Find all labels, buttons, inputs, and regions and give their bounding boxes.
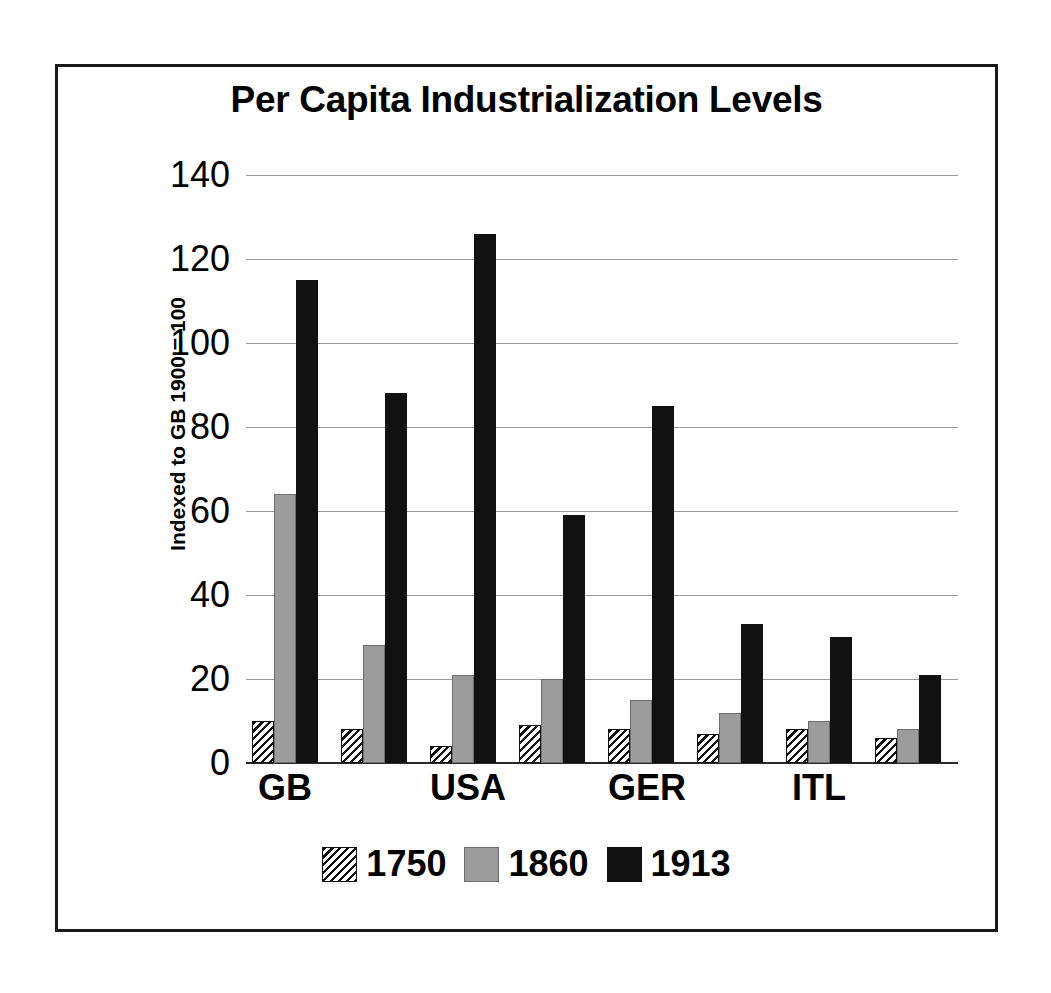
chart-legend: 175018601913: [58, 843, 995, 885]
legend-label: 1913: [651, 843, 731, 885]
bar-1750-group6: [697, 734, 719, 763]
bar-1750-group8: [875, 738, 897, 763]
bar-1750-GB: [252, 721, 274, 763]
bar-1913-group4: [563, 515, 585, 763]
bar-group: GER: [608, 175, 674, 763]
plot-area: 140120100806040200GBUSAGERITL: [246, 175, 958, 763]
hatch-swatch-icon: [322, 847, 357, 882]
bar-1860-USA: [452, 675, 474, 763]
bar-group: GB: [252, 175, 318, 763]
chart-title: Per Capita Industrialization Levels: [58, 79, 995, 121]
y-axis-tick-label: 140: [170, 154, 230, 196]
y-axis-tick-label: 80: [190, 406, 230, 448]
bar-1860-GB: [274, 494, 296, 763]
y-axis-tick-label: 60: [190, 490, 230, 532]
y-axis-tick-label: 0: [210, 742, 230, 784]
bar-1913-USA: [474, 234, 496, 763]
bar-1860-group4: [541, 679, 563, 763]
legend-label: 1860: [508, 843, 588, 885]
legend-entry-1860: 1860: [464, 843, 588, 885]
y-axis-tick-label: 40: [190, 574, 230, 616]
gray-swatch-icon: [464, 847, 499, 882]
y-axis-tick-label: 120: [170, 238, 230, 280]
bar-1860-group8: [897, 729, 919, 763]
bar-1750-group4: [519, 725, 541, 763]
bar-1913-ITL: [830, 637, 852, 763]
bar-1750-ITL: [786, 729, 808, 763]
bar-1913-GER: [652, 406, 674, 763]
x-axis-tick-label: GB: [252, 767, 318, 809]
bar-1860-ITL: [808, 721, 830, 763]
bar-1750-USA: [430, 746, 452, 763]
x-axis-tick-label: GER: [608, 767, 674, 809]
bar-group: [875, 175, 941, 763]
bar-group: ITL: [786, 175, 852, 763]
bar-group: [341, 175, 407, 763]
bar-1860-GER: [630, 700, 652, 763]
bar-1913-group2: [385, 393, 407, 763]
y-axis-tick-label: 100: [170, 322, 230, 364]
y-axis-tick-label: 20: [190, 658, 230, 700]
bar-1913-group6: [741, 624, 763, 763]
bar-1860-group6: [719, 713, 741, 763]
chart-frame: Per Capita Industrialization Levels Inde…: [55, 64, 998, 932]
bar-1860-group2: [363, 645, 385, 763]
bar-group: USA: [430, 175, 496, 763]
bar-1750-group2: [341, 729, 363, 763]
bar-1913-group8: [919, 675, 941, 763]
black-swatch-icon: [607, 847, 642, 882]
bar-1750-GER: [608, 729, 630, 763]
bar-group: [697, 175, 763, 763]
x-axis-tick-label: USA: [430, 767, 496, 809]
x-axis-tick-label: ITL: [786, 767, 852, 809]
legend-entry-1913: 1913: [607, 843, 731, 885]
legend-label: 1750: [366, 843, 446, 885]
legend-entry-1750: 1750: [322, 843, 446, 885]
chart-figure: Per Capita Industrialization Levels Inde…: [0, 0, 1051, 993]
bar-group: [519, 175, 585, 763]
bar-1913-GB: [296, 280, 318, 763]
